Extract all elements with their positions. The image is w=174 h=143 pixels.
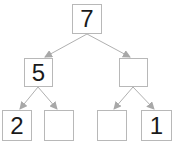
edge-left-leftright: [38, 87, 57, 109]
node-root: 7: [72, 4, 102, 34]
node-left-left: 2: [2, 110, 32, 141]
node-right-right-value: 1: [150, 114, 163, 138]
node-root-value: 7: [80, 7, 93, 31]
edge-root-right: [87, 34, 130, 57]
edge-left-leftleft: [20, 87, 38, 109]
node-right-right: 1: [141, 110, 172, 141]
edge-root-left: [45, 34, 87, 57]
edge-right-rightleft: [114, 87, 133, 109]
node-right-left: [97, 110, 127, 141]
node-left-left-value: 2: [10, 114, 23, 138]
node-right: [119, 58, 148, 87]
node-left-right: [44, 110, 74, 141]
node-left-value: 5: [32, 61, 45, 85]
node-left: 5: [24, 58, 53, 87]
edge-right-rightright: [133, 87, 154, 109]
